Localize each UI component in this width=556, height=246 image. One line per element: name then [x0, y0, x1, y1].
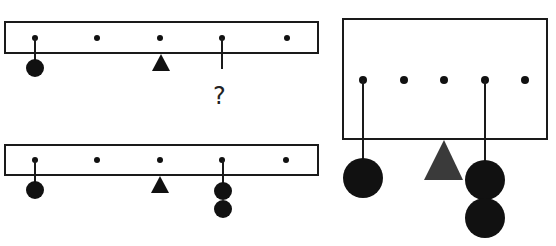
- hook-dot-5: [284, 35, 290, 41]
- panel-right: [343, 19, 547, 238]
- fulcrum-triangle: [152, 54, 170, 71]
- weight-circle: [214, 200, 232, 218]
- hook-dot-2: [400, 76, 408, 84]
- hook-dot-5: [521, 76, 529, 84]
- hook-dot-3: [157, 35, 163, 41]
- balance-diagram: [0, 0, 556, 246]
- weight-circle: [465, 160, 505, 200]
- weight-circle: [465, 198, 505, 238]
- weight-circle: [26, 181, 44, 199]
- panel-top-left: [5, 22, 318, 77]
- panel-bottom-left: [5, 145, 318, 218]
- weight-circle: [26, 59, 44, 77]
- fulcrum-triangle: [151, 176, 169, 193]
- hook-dot-2: [94, 157, 100, 163]
- hook-dot-2: [94, 35, 100, 41]
- hook-dot-3: [157, 157, 163, 163]
- question-mark: ?: [213, 84, 226, 108]
- weight-circle: [214, 182, 232, 200]
- fulcrum-triangle: [424, 140, 463, 180]
- hook-dot-3: [440, 76, 448, 84]
- weight-circle: [343, 158, 383, 198]
- hook-dot-5: [283, 157, 289, 163]
